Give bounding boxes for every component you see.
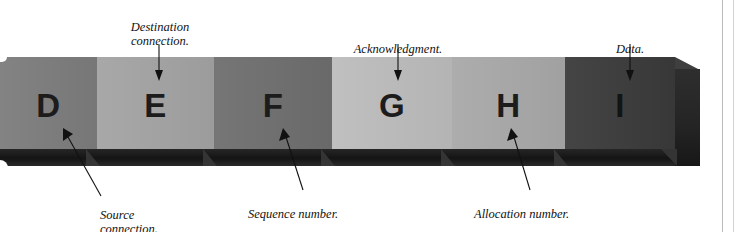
- bar-segment-h[interactable]: H: [452, 57, 565, 149]
- figure-canvas: D E F G H I: [0, 0, 735, 232]
- bar-segment-e[interactable]: E: [97, 57, 214, 149]
- bar-segment-label: I: [615, 89, 625, 122]
- packet-bar-right-face: [675, 69, 700, 166]
- bar-segment-label: E: [144, 89, 167, 122]
- packet-bar: D E F G H I: [0, 57, 700, 167]
- callout-text: Allocation number.: [474, 207, 569, 221]
- page-gutter-rule: [722, 0, 723, 232]
- bar-segment-label: F: [263, 89, 284, 122]
- callout-text: Destination connection.: [131, 20, 189, 48]
- packet-bar-front-face: D E F G H I: [0, 57, 675, 149]
- callout-text: Acknowledgment.: [354, 42, 443, 56]
- packet-bar-bottom-face: [0, 149, 675, 166]
- callout-sequence-number: Sequence number.: [248, 193, 378, 221]
- callout-destination-connection: Destination connection.: [110, 6, 210, 48]
- bar-segment-label: H: [496, 89, 520, 122]
- bar-segment-label: D: [36, 89, 60, 122]
- callout-source-connection: Source connection.: [100, 194, 210, 232]
- bar-segment-i[interactable]: I: [565, 57, 675, 149]
- callout-text: Data.: [616, 42, 644, 56]
- bar-segment-f[interactable]: F: [214, 57, 332, 149]
- page-gutter-rule-secondary: [733, 0, 734, 232]
- callout-acknowledgment: Acknowledgment.: [333, 28, 463, 56]
- bar-segment-g[interactable]: G: [332, 57, 452, 149]
- bar-segment-d[interactable]: D: [0, 57, 97, 149]
- callout-text: Sequence number.: [248, 207, 338, 221]
- callout-text: Source connection.: [100, 208, 158, 232]
- bar-segment-label: G: [379, 89, 405, 122]
- callout-allocation-number: Allocation number.: [474, 193, 614, 221]
- callout-data: Data.: [595, 28, 665, 56]
